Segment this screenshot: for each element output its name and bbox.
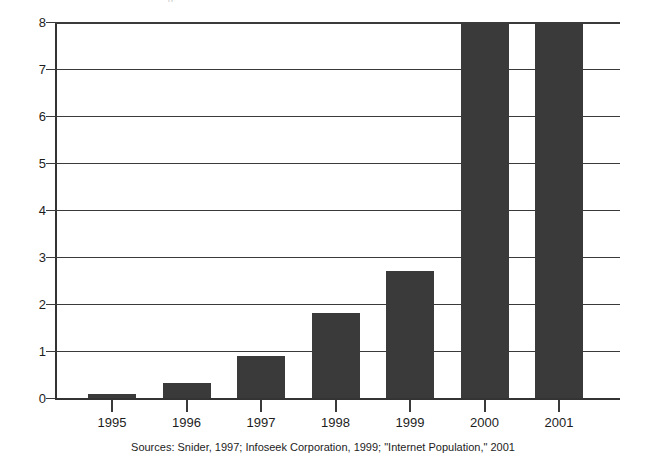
- bar-1997: [237, 356, 285, 398]
- y-axis-line: [55, 22, 57, 400]
- x-axis-tick-label: 1997: [221, 415, 301, 430]
- y-axis-tick-labels: 012345678: [14, 22, 46, 400]
- x-axis-tick: [335, 400, 337, 412]
- y-axis-tick: [46, 69, 55, 70]
- bar-2000: [461, 22, 509, 398]
- bar-1998: [312, 313, 360, 398]
- x-axis-tick-label: 1995: [72, 415, 152, 430]
- y-axis-tick-label: 0: [14, 392, 46, 405]
- y-axis-tick: [46, 257, 55, 258]
- y-axis-tick: [46, 22, 55, 23]
- y-axis-tick: [46, 398, 55, 399]
- plot-area: [55, 22, 620, 400]
- x-axis-tick-label: 1996: [147, 415, 227, 430]
- y-axis-tick: [46, 163, 55, 164]
- cut-off-title-remnant: g: [168, 0, 194, 2]
- y-axis-tick-label: 3: [14, 251, 46, 264]
- y-axis-tick-label: 5: [14, 157, 46, 170]
- y-axis-tick-label: 1: [14, 345, 46, 358]
- y-axis-tick: [46, 116, 55, 117]
- x-axis-tick: [260, 400, 262, 412]
- bar-1995: [88, 394, 136, 398]
- x-axis-tick: [111, 400, 113, 412]
- x-axis-tick: [409, 400, 411, 412]
- y-axis-tick: [46, 304, 55, 305]
- x-axis-tick-label: 1998: [296, 415, 376, 430]
- chart-figure: g 012345678 1995199619971998199920002001…: [0, 0, 646, 461]
- x-axis-tick: [186, 400, 188, 412]
- y-axis-tick-label: 6: [14, 110, 46, 123]
- bar-2001: [535, 22, 583, 398]
- y-axis-tick-label: 2: [14, 298, 46, 311]
- y-axis-tick: [46, 210, 55, 211]
- x-axis-tick: [484, 400, 486, 412]
- x-axis-tick-label: 2001: [519, 415, 599, 430]
- x-axis-tick-label: 2000: [445, 415, 525, 430]
- sources-caption: Sources: Snider, 1997; Infoseek Corporat…: [0, 441, 646, 454]
- y-axis-tick-label: 7: [14, 63, 46, 76]
- y-axis-tick: [46, 351, 55, 352]
- x-axis-line: [55, 398, 620, 400]
- x-axis-tick: [558, 400, 560, 412]
- bar-1999: [386, 271, 434, 398]
- y-axis-tick-label: 4: [14, 204, 46, 217]
- x-axis-tick-label: 1999: [370, 415, 450, 430]
- y-axis-tick-label: 8: [14, 16, 46, 29]
- bar-1996: [163, 383, 211, 398]
